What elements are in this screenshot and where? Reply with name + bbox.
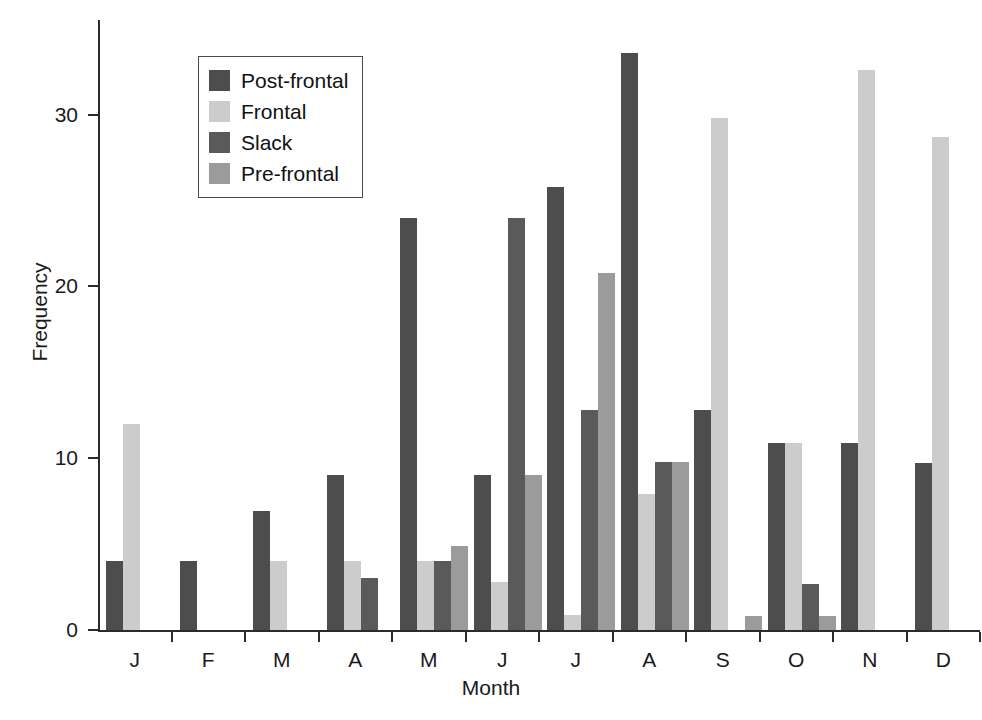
- bar: [106, 561, 123, 630]
- bar: [819, 616, 836, 630]
- x-tick-mark: [171, 632, 173, 642]
- bar: [491, 582, 508, 630]
- bar: [547, 187, 564, 630]
- bar: [180, 561, 197, 630]
- bar: [508, 218, 525, 630]
- legend-swatch-icon: [209, 132, 230, 153]
- bar-chart-figure: 0102030 JFMAMJJASOND Frequency Month Pos…: [0, 0, 982, 720]
- x-tick-label: J: [546, 648, 606, 672]
- x-tick-mark: [832, 632, 834, 642]
- bar: [361, 578, 378, 630]
- legend-item: Pre-frontal: [209, 158, 348, 189]
- y-axis-label: Frequency: [28, 262, 52, 361]
- bar: [327, 475, 344, 630]
- x-tick-mark: [538, 632, 540, 642]
- legend-item-label: Slack: [241, 132, 292, 153]
- x-tick-mark: [612, 632, 614, 642]
- legend-item-label: Post-frontal: [241, 70, 348, 91]
- x-tick-mark: [391, 632, 393, 642]
- legend-swatch-icon: [209, 101, 230, 122]
- bar: [581, 410, 598, 630]
- bar: [621, 53, 638, 630]
- bar: [253, 511, 270, 630]
- bar: [694, 410, 711, 630]
- x-tick-label: A: [619, 648, 679, 672]
- x-tick-label: M: [252, 648, 312, 672]
- x-axis-label: Month: [0, 676, 982, 700]
- legend: Post-frontalFrontalSlackPre-frontal: [198, 56, 363, 198]
- legend-item: Slack: [209, 127, 348, 158]
- x-tick-mark: [759, 632, 761, 642]
- y-tick-mark: [88, 457, 98, 459]
- y-tick-label: 0: [14, 619, 78, 640]
- y-tick-mark: [88, 114, 98, 116]
- x-tick-mark: [318, 632, 320, 642]
- legend-swatch-icon: [209, 163, 230, 184]
- bar: [417, 561, 434, 630]
- bar: [638, 494, 655, 630]
- y-tick-mark: [88, 629, 98, 631]
- bar: [564, 615, 581, 630]
- bar: [745, 616, 762, 630]
- bar: [598, 273, 615, 630]
- bar: [123, 424, 140, 630]
- bar: [474, 475, 491, 630]
- bar: [270, 561, 287, 630]
- x-tick-label: F: [178, 648, 238, 672]
- x-tick-label: D: [913, 648, 973, 672]
- bar: [785, 443, 802, 630]
- bar: [802, 584, 819, 630]
- legend-item: Post-frontal: [209, 65, 348, 96]
- x-tick-label: A: [325, 648, 385, 672]
- bar: [400, 218, 417, 630]
- bar: [768, 443, 785, 630]
- legend-item: Frontal: [209, 96, 348, 127]
- bar: [434, 561, 451, 630]
- x-tick-label: M: [399, 648, 459, 672]
- x-tick-mark: [685, 632, 687, 642]
- bar: [932, 137, 949, 630]
- x-tick-label: S: [693, 648, 753, 672]
- x-tick-label: J: [105, 648, 165, 672]
- x-tick-label: O: [766, 648, 826, 672]
- x-tick-mark: [906, 632, 908, 642]
- y-tick-label: 10: [14, 447, 78, 468]
- x-tick-mark: [244, 632, 246, 642]
- bar: [655, 462, 672, 630]
- bar: [525, 475, 542, 630]
- legend-swatch-icon: [209, 70, 230, 91]
- bar: [711, 118, 728, 630]
- x-tick-label: J: [472, 648, 532, 672]
- bar: [672, 462, 689, 630]
- y-tick-mark: [88, 285, 98, 287]
- legend-item-label: Pre-frontal: [241, 163, 339, 184]
- legend-item-label: Frontal: [241, 101, 306, 122]
- bar: [451, 546, 468, 630]
- bar: [915, 463, 932, 630]
- bar: [858, 70, 875, 630]
- x-tick-label: N: [840, 648, 900, 672]
- x-tick-mark: [465, 632, 467, 642]
- bar: [841, 443, 858, 630]
- y-tick-label: 30: [14, 104, 78, 125]
- x-tick-mark: [979, 632, 981, 642]
- bar: [344, 561, 361, 630]
